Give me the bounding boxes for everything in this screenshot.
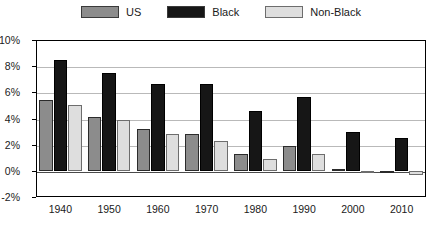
legend-swatch-icon bbox=[265, 6, 303, 18]
y-axis-tick-mark bbox=[32, 66, 36, 67]
y-axis-tick-label: 2% bbox=[0, 139, 20, 151]
gridline bbox=[37, 67, 425, 68]
x-axis-tick-label: 2010 bbox=[390, 203, 413, 215]
y-axis-tick-mark bbox=[32, 119, 36, 120]
y-axis-tick-mark bbox=[32, 92, 36, 93]
legend-entry-us[interactable]: US bbox=[81, 6, 141, 18]
x-axis-tick-label: 1940 bbox=[49, 203, 72, 215]
chart-legend: USBlackNon-Black bbox=[0, 6, 442, 18]
zero-line bbox=[37, 172, 425, 173]
legend-label: Non-Black bbox=[310, 6, 361, 18]
legend-label: US bbox=[126, 6, 141, 18]
bar-chart: USBlackNon-Black 10%8%6%4%2%0%-2% 194019… bbox=[0, 0, 442, 227]
legend-swatch-icon bbox=[167, 6, 205, 18]
x-axis-tick-label: 2000 bbox=[341, 203, 364, 215]
y-axis-tick-mark bbox=[32, 40, 36, 41]
x-axis-tick-label: 1980 bbox=[244, 203, 267, 215]
x-axis-tick-label: 1950 bbox=[97, 203, 120, 215]
legend-entry-non-black[interactable]: Non-Black bbox=[265, 6, 361, 18]
x-axis-tick-label: 1960 bbox=[146, 203, 169, 215]
legend-label: Black bbox=[212, 6, 239, 18]
gridline bbox=[37, 120, 425, 121]
y-axis-tick-label: -2% bbox=[0, 191, 20, 203]
legend-entry-black[interactable]: Black bbox=[167, 6, 239, 18]
legend-swatch-icon bbox=[81, 6, 119, 18]
y-axis-tick-label: 0% bbox=[0, 165, 20, 177]
y-axis-tick-label: 8% bbox=[0, 60, 20, 72]
gridline bbox=[37, 146, 425, 147]
x-axis-tick-label: 1990 bbox=[292, 203, 315, 215]
y-axis-tick-mark bbox=[32, 197, 36, 198]
x-axis-tick-label: 1970 bbox=[195, 203, 218, 215]
y-axis-tick-label: 4% bbox=[0, 113, 20, 125]
y-axis-tick-mark bbox=[32, 171, 36, 172]
y-axis-tick-label: 10% bbox=[0, 34, 20, 46]
gridline bbox=[37, 93, 425, 94]
plot-area bbox=[36, 40, 426, 197]
y-axis-tick-mark bbox=[32, 145, 36, 146]
y-axis-tick-label: 6% bbox=[0, 86, 20, 98]
